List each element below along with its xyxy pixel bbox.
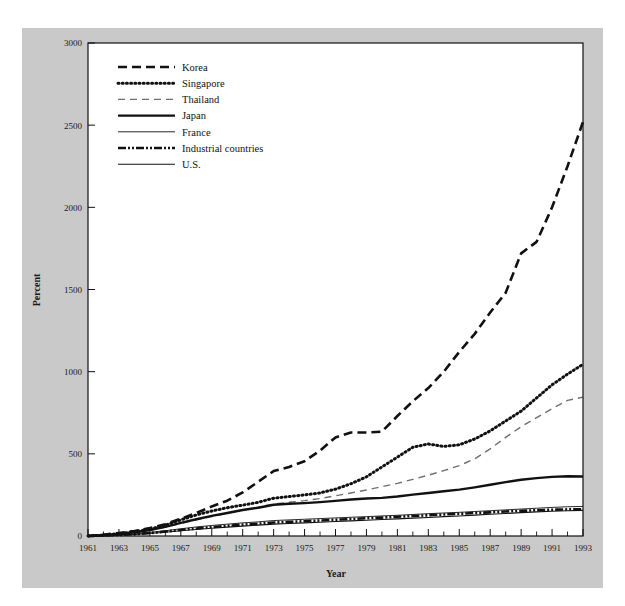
y-tick-label: 1000: [64, 367, 83, 377]
x-tick-label: 1969: [203, 543, 222, 553]
legend-label-thailand: Thailand: [182, 94, 220, 105]
x-tick-label: 1987: [481, 543, 500, 553]
y-tick-label: 2500: [64, 121, 83, 131]
plot-background: [88, 43, 583, 536]
x-tick-label: 1989: [512, 543, 531, 553]
chart-svg: 050010001500200025003000 196119631965196…: [0, 0, 625, 606]
x-tick-label: 1981: [388, 543, 406, 553]
x-tick-label: 1975: [296, 543, 315, 553]
x-tick-label: 1973: [265, 543, 284, 553]
legend-label-japan: Japan: [182, 110, 207, 121]
y-tick-label: 0: [78, 531, 83, 541]
x-tick-label: 1965: [141, 543, 160, 553]
y-axis-title: Percent: [31, 273, 42, 306]
y-tick-label: 2000: [64, 203, 83, 213]
x-tick-label: 1977: [327, 543, 346, 553]
legend-label-korea: Korea: [182, 62, 208, 73]
y-tick-label: 500: [69, 449, 83, 459]
x-tick-label: 1993: [574, 543, 593, 553]
x-tick-label: 1963: [110, 543, 129, 553]
y-tick-label: 3000: [64, 38, 83, 48]
legend-label-industrial-countries: Industrial countries: [182, 143, 263, 154]
legend-label-singapore: Singapore: [182, 78, 225, 89]
x-tick-label: 1983: [419, 543, 438, 553]
legend-label-france: France: [182, 127, 211, 138]
x-tick-label: 1991: [543, 543, 561, 553]
x-axis-title: Year: [326, 568, 347, 579]
figure-container: 050010001500200025003000 196119631965196…: [0, 0, 625, 606]
legend-label-u-s: U.S.: [182, 159, 201, 170]
x-tick-label: 1979: [357, 543, 376, 553]
x-tick-label: 1971: [234, 543, 252, 553]
x-tick-label: 1985: [450, 543, 469, 553]
line-chart: 050010001500200025003000 196119631965196…: [0, 0, 625, 606]
x-tick-label: 1961: [79, 543, 97, 553]
y-tick-label: 1500: [64, 285, 83, 295]
x-tick-label: 1967: [172, 543, 191, 553]
